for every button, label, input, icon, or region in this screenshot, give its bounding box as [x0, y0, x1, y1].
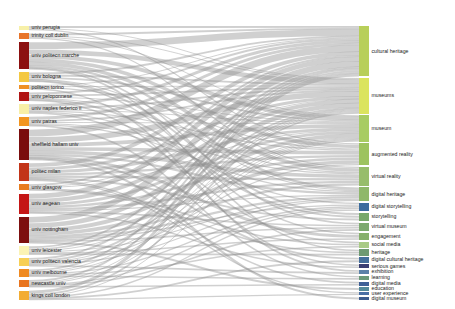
node-label-univ-bologna: univ bologna	[32, 73, 62, 79]
sankey-node-univ-peloponnese[interactable]	[19, 92, 29, 100]
node-label-cultural-heritage: cultural heritage	[372, 48, 409, 54]
node-label-univ-politecn-valencia: univ politecn valencia	[32, 258, 81, 264]
node-label-sheffield-hallam-univ: sheffield hallam univ	[32, 141, 79, 147]
sankey-node-univ-leicester[interactable]	[19, 246, 29, 254]
node-label-univ-peloponnese: univ peloponnese	[32, 93, 73, 99]
node-label-univ-aegean: univ aegean	[32, 200, 60, 206]
sankey-node-newcastle-univ[interactable]	[19, 280, 29, 287]
node-label-univ-glasgow: univ glasgow	[32, 184, 62, 190]
node-label-digital-heritage: digital heritage	[372, 191, 406, 197]
sankey-node-univ-patras[interactable]	[19, 117, 29, 126]
node-label-engagement: engagement	[372, 233, 401, 239]
sankey-node-heritage[interactable]	[359, 249, 369, 255]
sankey-node-univ-politecn-marche[interactable]	[19, 42, 29, 69]
sankey-node-digital-heritage[interactable]	[359, 187, 369, 201]
node-label-museum: museum	[372, 125, 392, 131]
node-label-heritage: heritage	[372, 249, 391, 255]
sankey-node-serious-games[interactable]	[359, 264, 369, 268]
node-label-virtual-reality: virtual reality	[372, 173, 402, 179]
sankey-node-digital-cultural-heritage[interactable]	[359, 257, 369, 262]
sankey-node-digital-storytelling[interactable]	[359, 203, 369, 211]
node-label-univ-leicester: univ leicester	[32, 247, 63, 253]
node-label-digital-museum: digital museum	[372, 295, 407, 301]
sankey-node-user-experience[interactable]	[359, 292, 369, 295]
node-label-univ-patras: univ patras	[32, 118, 58, 124]
sankey-node-virtual-museum[interactable]	[359, 223, 369, 231]
node-label-social-media: social media	[372, 241, 401, 247]
sankey-node-digital-media[interactable]	[359, 282, 369, 286]
node-label-univ-naples-federico: univ naples federico ii	[32, 105, 82, 111]
sankey-node-learning[interactable]	[359, 276, 369, 280]
sankey-node-education[interactable]	[359, 287, 369, 290]
sankey-node-trinity-coll-dublin[interactable]	[19, 33, 29, 38]
sankey-node-augmented-reality[interactable]	[359, 143, 369, 165]
node-label-digital-cultural-heritage: digital cultural heritage	[372, 256, 424, 262]
sankey-node-univ-melbourne[interactable]	[19, 269, 29, 276]
sankey-node-politec-milan[interactable]	[19, 163, 29, 181]
sankey-node-storytelling[interactable]	[359, 213, 369, 221]
node-label-kings-coll-london: kings coll london	[32, 292, 70, 298]
node-label-univ-nottingham: univ nottingham	[32, 226, 69, 232]
node-label-univ-politecn-marche: univ politecn marche	[32, 52, 80, 58]
node-label-newcastle-univ: newcastle univ	[32, 280, 66, 286]
node-label-polimi-polito: politecn torino	[32, 84, 64, 90]
node-label-augmented-reality: augmented reality	[372, 151, 414, 157]
sankey-node-univ-glasgow[interactable]	[19, 184, 29, 190]
node-label-virtual-museum: virtual museum	[372, 223, 407, 229]
sankey-diagram: univ perugiatrinity coll dublinuniv poli…	[0, 0, 455, 309]
sankey-node-kings-coll-london[interactable]	[19, 291, 29, 300]
sankey-node-sheffield-hallam-univ[interactable]	[19, 129, 29, 159]
sankey-node-univ-naples-federico[interactable]	[19, 104, 29, 113]
node-label-storytelling: storytelling	[372, 213, 397, 219]
node-label-politec-milan: politec milan	[32, 168, 61, 174]
sankey-canvas: univ perugiatrinity coll dublinuniv poli…	[0, 0, 455, 309]
node-label-univ-perugia: univ perugia	[32, 24, 60, 30]
sankey-node-univ-aegean[interactable]	[19, 194, 29, 214]
sankey-node-museums[interactable]	[359, 78, 369, 114]
sankey-node-cultural-heritage[interactable]	[359, 26, 369, 76]
node-label-trinity-coll-dublin: trinity coll dublin	[32, 32, 69, 38]
node-label-museums: museums	[372, 92, 395, 98]
sankey-node-digital-museum[interactable]	[359, 297, 369, 300]
sankey-node-museum[interactable]	[359, 115, 369, 141]
sankey-node-social-media[interactable]	[359, 242, 369, 248]
sankey-node-univ-perugia[interactable]	[19, 26, 29, 30]
sankey-node-univ-bologna[interactable]	[19, 72, 29, 81]
sankey-node-engagement[interactable]	[359, 233, 369, 240]
node-label-univ-melbourne: univ melbourne	[32, 269, 68, 275]
target-nodes-group	[359, 26, 369, 300]
sankey-node-polimi-polito[interactable]	[19, 85, 29, 89]
sankey-node-univ-nottingham[interactable]	[19, 217, 29, 243]
sankey-node-univ-politecn-valencia[interactable]	[19, 258, 29, 266]
sankey-node-exhibition[interactable]	[359, 270, 369, 274]
node-label-digital-storytelling: digital storytelling	[372, 203, 412, 209]
sankey-node-virtual-reality[interactable]	[359, 167, 369, 186]
